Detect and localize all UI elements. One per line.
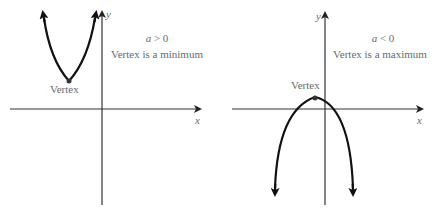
left-graph: Vertex x y a > 0 Vertex is a minimum (10, 8, 203, 205)
right-parabola-downward (275, 97, 353, 188)
left-y-axis-label: y (105, 8, 111, 20)
left-vertex-label: Vertex (50, 83, 79, 95)
right-graph: Vertex x y a < 0 Vertex is a maximum (232, 10, 427, 205)
right-vertex-point (313, 96, 318, 101)
left-condition: a > 0 (146, 32, 169, 44)
right-y-axis-label: y (315, 10, 321, 22)
left-parabola-upward (44, 18, 95, 81)
right-condition: a < 0 (372, 32, 395, 44)
left-description: Vertex is a minimum (111, 48, 203, 60)
left-x-axis-label: x (194, 114, 200, 126)
right-description: Vertex is a maximum (333, 48, 427, 60)
parabola-diagrams: Vertex x y a > 0 Vertex is a minimum Ver… (0, 0, 439, 216)
right-x-axis-label: x (416, 114, 422, 126)
right-vertex-label: Vertex (291, 79, 320, 91)
